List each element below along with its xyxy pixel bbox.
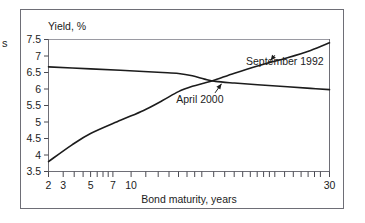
x-tick-label: 30 — [324, 179, 336, 191]
x-tick-label: 3 — [60, 179, 66, 191]
annotation-label: September 1992 — [246, 55, 324, 67]
x-tick-marks — [49, 172, 330, 178]
y-tick-label: 7.5 — [26, 33, 41, 45]
x-axis-title: Bond maturity, years — [141, 193, 237, 205]
y-tick-label: 6 — [35, 83, 41, 95]
x-tick-label: 2 — [46, 179, 52, 191]
y-tick-marks — [44, 40, 49, 172]
x-tick-labels: 2 3 5 7 10 30 — [46, 179, 336, 191]
y-tick-label: 7 — [35, 50, 41, 62]
y-tick-label: 4 — [35, 149, 41, 161]
y-tick-label: 3.5 — [26, 165, 41, 177]
x-tick-label: 7 — [110, 179, 116, 191]
y-tick-label: 5 — [35, 116, 41, 128]
yield-curve-chart: 7.5 7 6.5 6 5.5 5 4.5 4 3.5 — [0, 0, 365, 223]
x-tick-label: 10 — [125, 179, 137, 191]
annotation-label: April 2000 — [176, 93, 223, 105]
y-tick-label: 4.5 — [26, 132, 41, 144]
y-tick-labels: 7.5 7 6.5 6 5.5 5 4.5 4 3.5 — [26, 33, 41, 177]
y-tick-label: 6.5 — [26, 66, 41, 78]
annotation-september-1992: September 1992 — [246, 55, 324, 67]
annotation-april-2000: April 2000 — [176, 84, 223, 105]
figure-container: s 7.5 7 6.5 6 5.5 5 — [0, 0, 365, 223]
x-tick-label: 5 — [88, 179, 94, 191]
y-axis-title: Yield, % — [48, 20, 86, 32]
line-april-2000 — [49, 67, 330, 90]
y-tick-label: 5.5 — [26, 99, 41, 111]
